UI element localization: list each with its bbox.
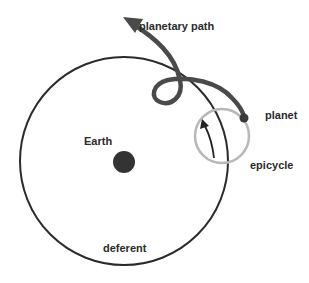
planet-label: planet: [265, 110, 297, 121]
epicycle-label: epicycle: [250, 160, 293, 171]
epicycle-diagram: [0, 0, 309, 283]
deferent-label: deferent: [103, 243, 146, 254]
planetary-path-label: planetary path: [139, 21, 214, 32]
earth-dot: [113, 151, 135, 173]
planet-dot: [240, 114, 249, 123]
rotation-arrow: [205, 126, 214, 158]
earth-label: Earth: [84, 136, 112, 147]
planetary-path-line: [133, 24, 244, 117]
